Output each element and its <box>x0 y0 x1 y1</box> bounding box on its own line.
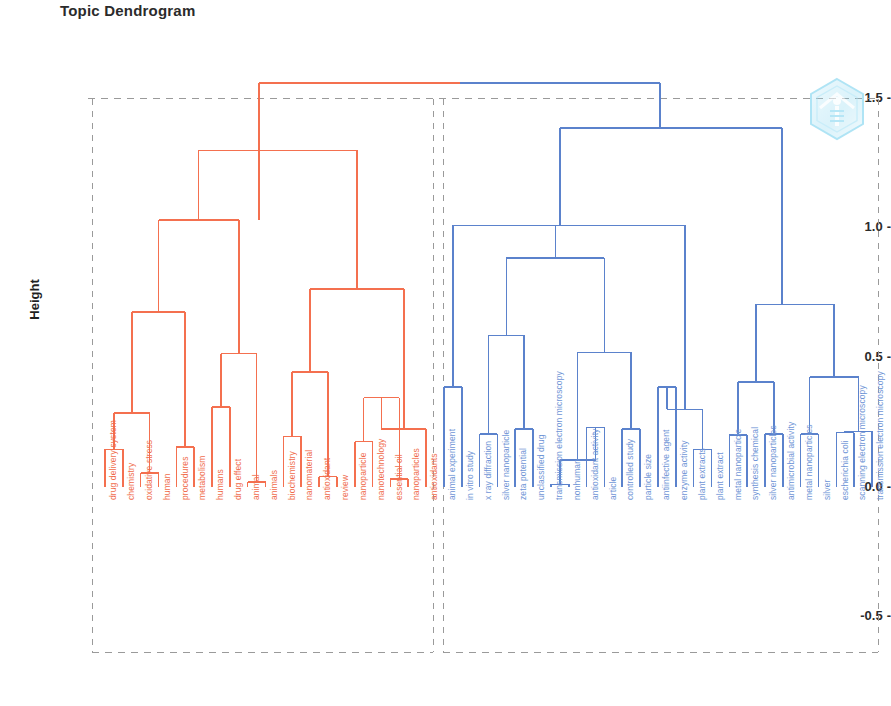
leaf-label-blue: animal experiment <box>447 429 457 500</box>
leaf-label-blue: transmission electron microscopy <box>554 371 564 500</box>
leaf-label-red: antioxidants <box>429 453 439 500</box>
leaf-label-blue: silver nanoparticles <box>768 425 778 500</box>
leaf-label-blue: particle size <box>643 454 653 500</box>
leaf-label-red: animal <box>251 474 261 500</box>
leaf-label-red: metabolism <box>197 456 207 500</box>
leaf-label-blue: metal nanoparticles <box>804 424 814 500</box>
leaf-label-red: review <box>340 475 350 500</box>
leaf-label-red: oxidative stress <box>144 440 154 500</box>
leaf-label-red: humans <box>215 469 225 500</box>
leaf-label-blue: scanning electron microscopy <box>857 385 867 500</box>
leaf-label-blue: silver nanoparticle <box>501 430 511 500</box>
leaf-label-blue: metal nanoparticle <box>733 429 743 500</box>
leaf-label-red: essential oil <box>394 454 404 500</box>
leaf-label-red: drug delivery system <box>108 420 118 500</box>
leaf-label-blue: x ray diffraction <box>483 441 493 500</box>
leaf-label-blue: article <box>608 477 618 500</box>
leaf-label-red: biochemistry <box>287 451 297 500</box>
leaf-label-red: human <box>162 474 172 501</box>
leaf-label-blue: synthesis chemical <box>750 427 760 500</box>
leaf-label-blue: unclassified drug <box>536 435 546 501</box>
plot-area: drug delivery systemchemistryoxidative s… <box>0 0 891 706</box>
leaf-label-blue: escherichia coli <box>840 440 850 500</box>
leaf-label-blue: silver <box>822 480 832 500</box>
dendrogram-svg <box>0 0 891 706</box>
leaf-label-blue: antiinfective agent <box>661 430 671 500</box>
leaf-label-red: nanoparticles <box>411 448 421 500</box>
leaf-label-red: nanotechnology <box>376 439 386 500</box>
leaf-label-blue: antimicrobial activity <box>786 422 796 500</box>
leaf-label-red: procedures <box>180 456 190 500</box>
leaf-label-blue: controlled study <box>625 439 635 500</box>
leaf-label-blue: plant extract <box>715 452 725 500</box>
leaf-label-red: nanomaterial <box>304 450 314 500</box>
leaf-label-blue: nonhuman <box>572 459 582 500</box>
leaf-label-blue: antioxidant activity <box>590 429 600 500</box>
dendrogram-figure: Topic Dendrogram Height 1.5- 1.0- 0.5- 0… <box>0 0 891 706</box>
leaf-label-red: antioxidant <box>322 458 332 500</box>
leaf-label-red: nanoparticle <box>358 452 368 500</box>
leaf-label-blue: plant extracts <box>697 448 707 500</box>
leaf-label-blue: zeta potential <box>518 448 528 500</box>
leaf-label-blue: enzyme activity <box>679 440 689 500</box>
leaf-label-red: drug effect <box>233 459 243 500</box>
leaf-label-blue: transmission electron microscopy <box>875 371 885 500</box>
leaf-label-blue: in vitro study <box>465 451 475 500</box>
leaf-label-red: chemistry <box>126 463 136 500</box>
leaf-label-red: animals <box>269 470 279 500</box>
hexagon-logo-watermark-icon <box>806 76 868 142</box>
